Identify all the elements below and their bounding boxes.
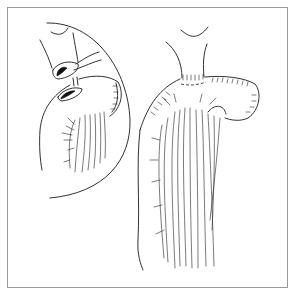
surgical-illustration <box>0 0 295 296</box>
inset-detail <box>40 23 130 198</box>
main-view <box>138 27 259 270</box>
